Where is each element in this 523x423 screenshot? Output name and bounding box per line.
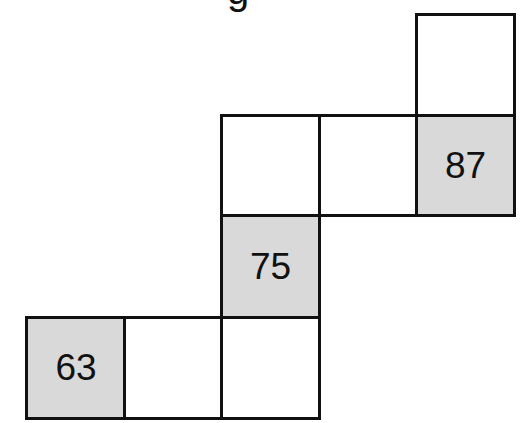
cell-r2-c5-value-87: 87 [415, 114, 516, 217]
cell-r4-c2 [123, 316, 224, 420]
cell-r4-c3 [220, 316, 321, 420]
cell-r2-c4 [318, 114, 419, 217]
cell-r1-c5 [415, 13, 516, 117]
cell-r2-c3 [220, 114, 321, 217]
cell-r4-c1-value-63: 63 [25, 316, 127, 420]
cut-off-title: g [178, 0, 298, 10]
cell-r3-c3-value-75: 75 [220, 214, 321, 319]
